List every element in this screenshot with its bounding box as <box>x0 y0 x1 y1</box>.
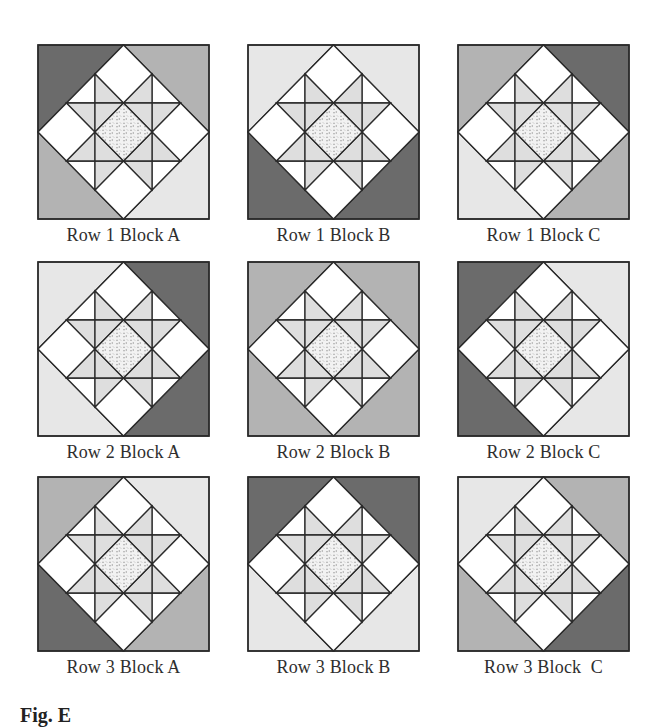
block-label: Row 2 Block C <box>439 442 649 463</box>
block-label: Row 2 Block B <box>229 442 439 463</box>
quilt-block <box>38 262 209 436</box>
quilt-block <box>248 477 419 651</box>
quilt-block-drawing <box>38 45 209 219</box>
quilt-block <box>38 477 209 651</box>
quilt-block <box>458 477 629 651</box>
quilt-block <box>458 45 629 219</box>
quilt-block-drawing <box>38 262 209 436</box>
block-label: Row 1 Block B <box>229 225 439 246</box>
quilt-block <box>248 45 419 219</box>
figure-caption: Fig. E <box>20 704 71 727</box>
quilt-block-drawing <box>458 477 629 651</box>
quilt-block-drawing <box>248 477 419 651</box>
quilt-block-drawing <box>38 477 209 651</box>
quilt-block <box>248 262 419 436</box>
block-label: Row 3 Block C <box>439 657 649 678</box>
quilt-block-drawing <box>458 45 629 219</box>
block-label: Row 2 Block A <box>19 442 229 463</box>
quilt-block <box>38 45 209 219</box>
quilt-block-drawing <box>248 45 419 219</box>
quilt-block <box>458 262 629 436</box>
block-label: Row 3 Block A <box>19 657 229 678</box>
block-label: Row 1 Block C <box>439 225 649 246</box>
block-label: Row 3 Block B <box>229 657 439 678</box>
quilt-block-drawing <box>248 262 419 436</box>
block-label: Row 1 Block A <box>19 225 229 246</box>
quilt-block-drawing <box>458 262 629 436</box>
